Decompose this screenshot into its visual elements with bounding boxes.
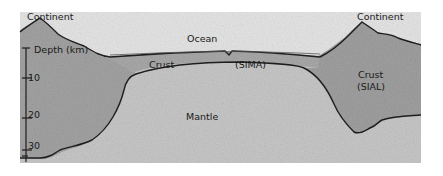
- continental-crust-label: Crust: [358, 70, 383, 80]
- sima-label: (SIMA): [235, 60, 266, 70]
- oceanic-crust-label: Crust: [149, 60, 174, 70]
- earth-crust-cross-section: Continent Continent Ocean Crust (SIMA) C…: [0, 0, 443, 176]
- depth-tick-20: 20: [28, 110, 40, 120]
- ocean-label: Ocean: [187, 34, 217, 44]
- mantle-label: Mantle: [186, 112, 218, 122]
- depth-tick-30: 30: [28, 141, 40, 151]
- sial-label: (SIAL): [357, 82, 385, 92]
- depth-tick-10: 10: [28, 73, 40, 83]
- continent-right-label: Continent: [357, 12, 403, 22]
- depth-axis-label: Depth (km): [34, 45, 88, 55]
- continent-left-label: Continent: [27, 12, 73, 22]
